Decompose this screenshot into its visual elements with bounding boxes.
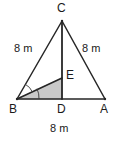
- vertex-dot-B: [16, 98, 18, 100]
- vertex-label-A: A: [100, 103, 108, 115]
- side-length-label-BA: 8 m: [50, 123, 68, 134]
- side-length-label-BC: 8 m: [14, 43, 32, 54]
- vertex-label-B: B: [9, 103, 17, 115]
- side-CA-line: [62, 21, 105, 99]
- vertex-label-E: E: [66, 69, 74, 81]
- geometry-figure: C B D A E 8 m 8 m 8 m: [0, 0, 123, 143]
- vertex-dot-C: [61, 20, 63, 22]
- angle-arc-CBE: [25, 84, 33, 92]
- side-length-label-CA: 8 m: [82, 43, 100, 54]
- vertex-label-C: C: [57, 2, 66, 14]
- vertex-label-D: D: [57, 103, 66, 115]
- vertex-dot-A: [104, 98, 106, 100]
